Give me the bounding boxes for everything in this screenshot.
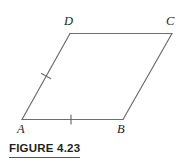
figure-caption-block: FIGURE 4.23 <box>9 142 81 158</box>
vertex-label-a: A <box>17 123 25 136</box>
figure-caption-rule <box>9 157 80 158</box>
side-bc <box>123 34 172 120</box>
figure-caption-text: FIGURE 4.23 <box>9 142 81 155</box>
vertex-label-c: C <box>166 15 174 28</box>
parallelogram-diagram <box>0 0 189 140</box>
vertex-label-d: D <box>64 15 73 28</box>
tick-mark-ad-icon <box>42 74 51 79</box>
figure-container: A B C D FIGURE 4.23 <box>0 0 189 165</box>
vertex-label-b: B <box>117 123 125 136</box>
